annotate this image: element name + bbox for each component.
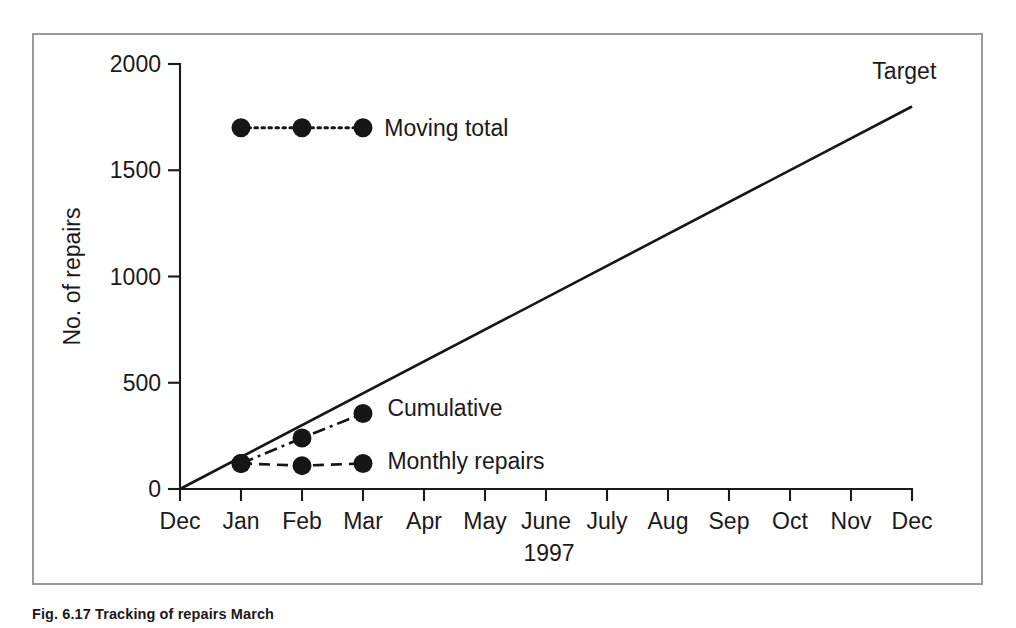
- x-tick-label: June: [521, 508, 571, 534]
- x-tick-label: Dec: [160, 508, 201, 534]
- y-tick-label: 500: [123, 370, 161, 396]
- chart-plot: 0500100015002000No. of repairsDecJanFebM…: [34, 35, 981, 583]
- data-point-marker: [354, 454, 373, 473]
- x-ticks: DecJanFebMarAprMayJuneJulyAugSepOctNovDe…: [160, 489, 933, 534]
- x-tick-label: Mar: [343, 508, 383, 534]
- x-tick-label: Feb: [282, 508, 322, 534]
- x-tick-label: Nov: [831, 508, 872, 534]
- x-tick-label: Sep: [709, 508, 750, 534]
- data-point-marker: [232, 118, 251, 137]
- y-ticks: 0500100015002000: [110, 51, 180, 502]
- data-point-marker: [293, 429, 312, 448]
- figure-caption: Fig. 6.17 Tracking of repairs March: [32, 606, 992, 628]
- series-target: [180, 107, 912, 490]
- data-point-marker: [293, 118, 312, 137]
- data-point-marker: [354, 118, 373, 137]
- data-point-marker: [232, 454, 251, 473]
- data-point-marker: [293, 456, 312, 475]
- data-point-marker: [354, 404, 373, 423]
- series-annotation-target: Target: [872, 58, 937, 84]
- series-annotations: TargetMoving totalCumulativeMonthly repa…: [384, 58, 937, 474]
- x-tick-label: Oct: [772, 508, 808, 534]
- series-annotation-cumulative: Cumulative: [387, 395, 502, 421]
- x-tick-label: Dec: [892, 508, 933, 534]
- y-tick-label: 0: [148, 476, 161, 502]
- series-moving-total: [232, 118, 373, 137]
- x-tick-label: May: [463, 508, 507, 534]
- x-tick-label: Apr: [406, 508, 442, 534]
- x-tick-label: July: [587, 508, 628, 534]
- figure-frame: 0500100015002000No. of repairsDecJanFebM…: [32, 33, 983, 585]
- y-axis-title: No. of repairs: [59, 207, 85, 345]
- y-tick-label: 1000: [110, 264, 161, 290]
- x-axis-title: 1997: [523, 540, 574, 566]
- x-tick-label: Jan: [222, 508, 259, 534]
- series-annotation-monthly-repairs: Monthly repairs: [387, 448, 544, 474]
- y-tick-label: 2000: [110, 51, 161, 77]
- series-line: [180, 107, 912, 490]
- y-tick-label: 1500: [110, 157, 161, 183]
- series-annotation-moving-total: Moving total: [384, 115, 508, 141]
- series-monthly-repairs: [232, 454, 373, 475]
- x-tick-label: Aug: [648, 508, 689, 534]
- figure-page: 0500100015002000No. of repairsDecJanFebM…: [0, 0, 1016, 628]
